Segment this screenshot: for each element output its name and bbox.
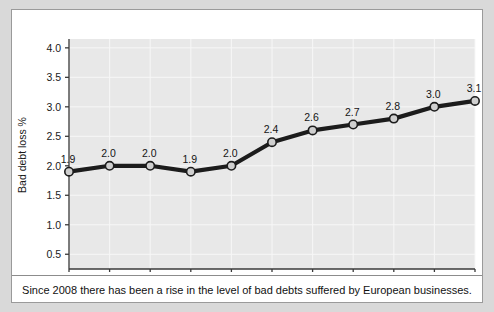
data-point-marker [227,162,235,170]
caption-divider [12,275,482,276]
y-tick-label: 0.5 [46,248,61,260]
data-point-marker [471,97,479,105]
y-axis-tick-labels: 0.51.01.52.02.53.03.54.0 [46,42,61,260]
data-point-label: 2.7 [345,106,360,118]
y-axis-title: Bad debt loss % [16,117,28,193]
y-tick-label: 3.0 [46,101,61,113]
data-point-label: 3.0 [426,88,441,100]
bad-debt-loss-line-chart: 0.51.01.52.02.53.03.54.0 200420052006200… [12,10,482,272]
data-point-label: 3.1 [467,82,482,94]
data-point-marker [187,167,195,175]
data-point-marker [105,162,113,170]
data-point-marker [430,103,438,111]
data-point-marker [268,138,276,146]
data-point-label: 1.9 [182,153,197,165]
data-point-label: 2.6 [304,111,319,123]
y-tick-label: 2.0 [46,160,61,172]
y-tick-label: 3.5 [46,71,61,83]
data-point-label: 2.8 [385,100,400,112]
y-tick-label: 1.5 [46,189,61,201]
data-point-marker [65,167,73,175]
chart-plot-region: 0.51.01.52.02.53.03.54.0 200420052006200… [12,10,482,272]
data-point-marker [308,126,316,134]
data-point-marker [349,120,357,128]
data-point-label: 1.9 [61,153,76,165]
y-tick-label: 1.0 [46,219,61,231]
data-point-marker [390,114,398,122]
data-point-marker [146,162,154,170]
figure-caption: Since 2008 there has been a rise in the … [12,277,482,302]
data-point-label: 2.0 [142,147,157,159]
y-tick-label: 4.0 [46,42,61,54]
data-point-label: 2.0 [223,147,238,159]
data-point-label: 2.0 [101,147,116,159]
data-point-label: 2.4 [264,123,279,135]
figure-card: 0.51.01.52.02.53.03.54.0 200420052006200… [11,9,483,303]
y-tick-label: 2.5 [46,130,61,142]
